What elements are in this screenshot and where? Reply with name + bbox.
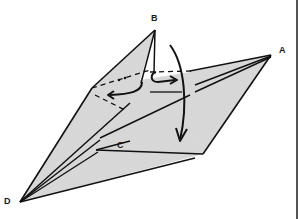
label-a: A	[279, 46, 286, 55]
origami-diagram	[0, 0, 299, 219]
label-b: B	[151, 14, 158, 23]
label-d: D	[4, 197, 11, 206]
label-c: C	[117, 141, 124, 150]
